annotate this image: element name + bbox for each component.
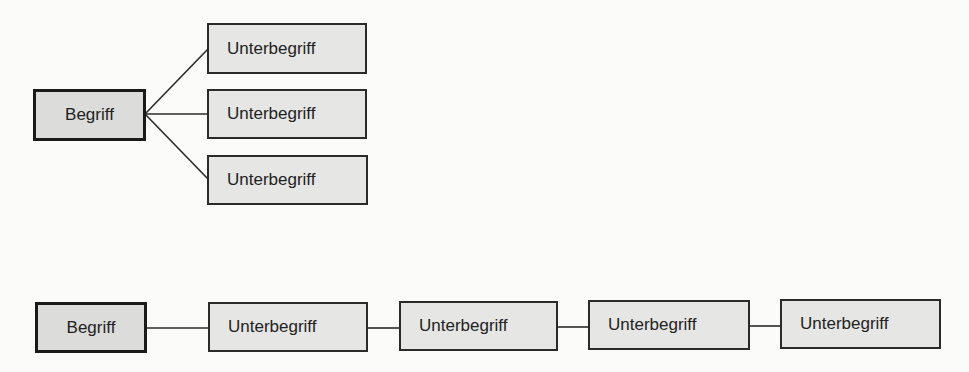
tree-child-3: Unterbegriff bbox=[207, 155, 368, 205]
tree-child-1: Unterbegriff bbox=[207, 23, 367, 74]
chain-item-label: Unterbegriff bbox=[228, 317, 317, 337]
chain-item-3: Unterbegriff bbox=[588, 300, 750, 350]
chain-root-label: Begriff bbox=[67, 318, 116, 338]
tree-root-label: Begriff bbox=[65, 105, 114, 125]
chain-item-label: Unterbegriff bbox=[419, 316, 508, 336]
tree-child-2: Unterbegriff bbox=[207, 89, 367, 139]
chain-item-4: Unterbegriff bbox=[780, 299, 941, 349]
concept-diagram: Begriff Unterbegriff Unterbegriff Unterb… bbox=[0, 0, 969, 372]
tree-child-label: Unterbegriff bbox=[227, 170, 316, 190]
chain-item-1: Unterbegriff bbox=[208, 302, 368, 352]
tree-connector-3 bbox=[145, 114, 208, 179]
chain-item-label: Unterbegriff bbox=[800, 314, 889, 334]
chain-item-label: Unterbegriff bbox=[608, 315, 697, 335]
chain-root-begriff: Begriff bbox=[35, 302, 147, 353]
chain-item-2: Unterbegriff bbox=[399, 301, 558, 351]
tree-root-begriff: Begriff bbox=[33, 89, 146, 141]
tree-child-label: Unterbegriff bbox=[227, 39, 316, 59]
tree-child-label: Unterbegriff bbox=[227, 104, 316, 124]
tree-connector-1 bbox=[145, 49, 208, 114]
